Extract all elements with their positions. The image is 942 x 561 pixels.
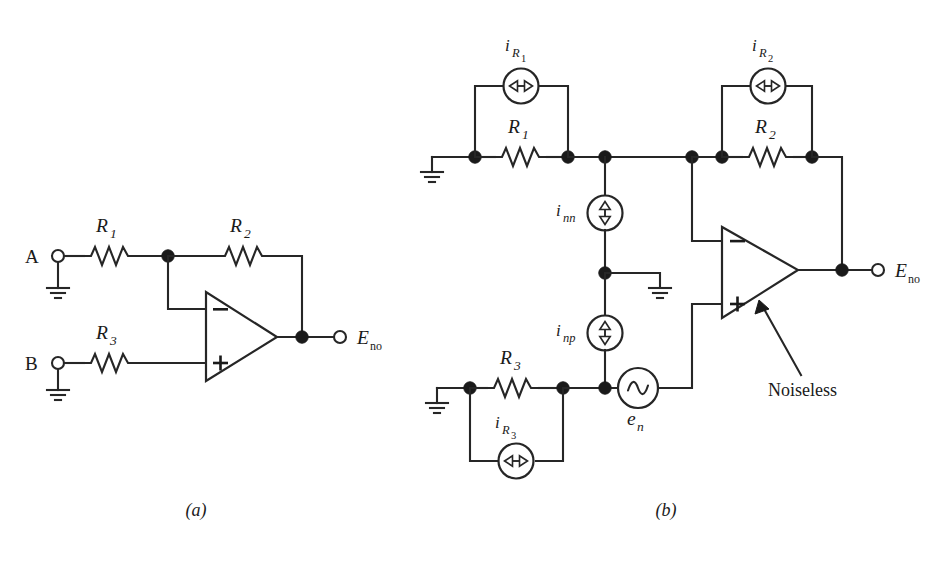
resistor-r3-label-a: R — [95, 322, 108, 343]
resistor-r2-label-a: R — [229, 215, 242, 236]
voltage-source-en-sub: n — [637, 419, 644, 434]
current-source-ir2-sub: R — [758, 46, 767, 60]
input-terminal-a[interactable] — [52, 250, 64, 262]
current-source-ir1-sub2: 1 — [521, 53, 526, 64]
wire-ir2-left-b — [722, 86, 750, 157]
wire-midnode-to-ground-b — [605, 273, 660, 288]
resistor-r1-label-b: R — [507, 116, 520, 137]
ground-symbol-b2 — [649, 288, 671, 298]
resistor-r1-sub-b: 1 — [522, 127, 529, 142]
ground-symbol-b — [47, 390, 69, 400]
resistor-r3-label-b: R — [499, 347, 512, 368]
node-output-a — [296, 331, 308, 343]
wire-en-to-plus-b — [658, 304, 722, 388]
current-source-ir3-sub: R — [501, 423, 510, 437]
input-terminal-b[interactable] — [52, 357, 64, 369]
current-source-inn-label: i — [556, 201, 561, 220]
resistor-r1-symbol-b — [495, 148, 547, 166]
noiseless-pointer-line — [764, 309, 801, 375]
resistor-r3-sub-a: 3 — [109, 333, 117, 348]
wire-ir1-right-b — [540, 86, 568, 157]
voltage-source-en[interactable] — [618, 368, 658, 408]
output-label-eno-b: E — [894, 260, 907, 281]
caption-a: (a) — [186, 500, 207, 521]
output-sub-eno-a: no — [370, 339, 382, 353]
node-inp-bottom-b — [599, 382, 611, 394]
resistor-r2-sub-b: 2 — [769, 127, 776, 142]
resistor-r1-label-a: R — [95, 215, 108, 236]
opamp-a[interactable] — [206, 292, 277, 381]
wire-node-to-minus-a — [168, 256, 206, 309]
output-label-eno-a: E — [356, 327, 369, 348]
wire-ir3-right-b — [536, 388, 563, 461]
noiseless-annotation: Noiseless — [768, 380, 837, 400]
noiseless-pointer-arrowhead — [755, 300, 769, 314]
resistor-r1-symbol-a — [84, 247, 136, 265]
resistor-r2-symbol-b — [742, 148, 794, 166]
wire-ir2-right-b — [786, 86, 812, 157]
wire-ir1-left-b — [475, 86, 503, 157]
current-source-ir2-sub2: 2 — [768, 53, 773, 64]
current-source-ir3-sub2: 3 — [511, 430, 516, 441]
current-source-ir1-label: i — [505, 36, 510, 55]
input-terminal-b-label: B — [25, 353, 38, 374]
current-source-inp[interactable] — [588, 316, 623, 351]
wire-ir3-left-b — [470, 388, 497, 461]
wire-r2-to-output-a — [270, 256, 302, 337]
output-sub-eno-b: no — [908, 272, 920, 286]
input-terminal-a-label: A — [25, 246, 39, 267]
current-source-inn[interactable] — [588, 196, 623, 231]
resistor-r2-symbol-a — [218, 247, 270, 265]
ground-symbol-b3 — [426, 403, 448, 413]
current-source-ir3[interactable] — [499, 444, 534, 479]
current-source-ir2-label: i — [752, 36, 757, 55]
caption-b: (b) — [656, 500, 677, 521]
output-terminal-eno-b[interactable] — [872, 264, 884, 276]
wire-rail-to-minus-b — [692, 157, 722, 241]
opamp-a-minus-sign — [213, 308, 228, 311]
ground-symbol-a — [47, 288, 69, 298]
opamp-b-plus-sign-v — [736, 297, 739, 312]
resistor-r1-sub-a: 1 — [110, 226, 117, 241]
opamp-b-minus-sign — [730, 240, 745, 243]
resistor-r2-label-b: R — [754, 116, 767, 137]
output-terminal-eno-a[interactable] — [334, 331, 346, 343]
wire-feedback-to-output-b — [812, 157, 842, 270]
resistor-r2-sub-a: 2 — [244, 226, 251, 241]
resistor-r3-symbol-b — [487, 379, 539, 397]
current-source-inp-sub: np — [563, 331, 576, 345]
current-source-ir1[interactable] — [504, 69, 539, 104]
resistor-r3-sub-b: 3 — [513, 358, 521, 373]
figure-root: A R 1 R — [0, 0, 942, 561]
resistor-r3-symbol-a — [84, 354, 136, 372]
circuit-b: R 1 i R 1 R 2 — [421, 36, 920, 479]
current-source-inn-sub: nn — [563, 211, 576, 225]
voltage-source-en-label: e — [627, 408, 636, 429]
current-source-inp-label: i — [556, 321, 561, 340]
ground-symbol-b1 — [421, 172, 443, 182]
current-source-ir2[interactable] — [751, 69, 786, 104]
circuit-figure-canvas: A R 1 R — [0, 0, 942, 561]
node-output-b — [836, 264, 848, 276]
circuit-a: A R 1 R — [25, 215, 382, 400]
opamp-a-plus-sign-v — [219, 356, 222, 371]
current-source-ir3-label: i — [495, 413, 500, 432]
current-source-ir1-sub: R — [511, 46, 520, 60]
